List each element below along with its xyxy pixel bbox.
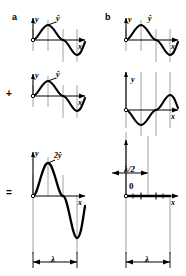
x-axis-label-b2: x (171, 113, 175, 121)
leader-a1 (48, 22, 56, 25)
y-axis-label-a2: y (35, 72, 39, 80)
x-axis-label-b3: x (171, 199, 175, 207)
amplitude-label-b1: ŷ (148, 15, 152, 23)
amplitude-label-a2: ŷ (56, 71, 60, 79)
lambda-label-b: λ (145, 255, 149, 264)
amplitude-label-a3: 2ŷ (54, 152, 62, 160)
zero-label: 0 (129, 182, 134, 191)
y-axis-label-b2: y (131, 76, 135, 84)
y-axis-label-b1: y (128, 16, 132, 24)
amplitude-label-a1: ŷ (56, 15, 60, 23)
leader-a3 (48, 160, 55, 163)
lambda-label-a: λ (51, 255, 55, 264)
lambda-half-label: λ/2 (124, 165, 135, 174)
figure-canvas (0, 0, 186, 276)
leader-a2 (48, 78, 56, 81)
y-axis-label-a3: y (35, 150, 39, 158)
x-axis-label-a3: x (78, 199, 82, 207)
column-letter-b: b (105, 13, 111, 22)
panel-a2 (31, 74, 85, 118)
column-letter-a: a (12, 13, 17, 22)
operator-plus: + (6, 89, 12, 99)
panel-b1 (124, 18, 178, 62)
x-axis-label-a2: x (78, 99, 82, 107)
panel-a1 (31, 18, 85, 62)
panel-b3 (124, 193, 178, 269)
wave-superposition-figure: a b + = y y y x x x ŷ ŷ 2ŷ λ y y x x x ŷ… (0, 0, 186, 276)
y-axis-label-a1: y (35, 16, 39, 24)
x-axis-label-b1: x (171, 43, 175, 51)
x-axis-label-a1: x (78, 43, 82, 51)
panel-a3 (31, 152, 85, 268)
operator-equals: = (6, 188, 12, 198)
